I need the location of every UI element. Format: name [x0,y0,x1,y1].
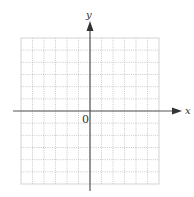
y-axis-label: y [85,9,92,20]
x-axis-label: x [185,105,191,116]
x-axis-arrow-icon [172,108,182,115]
origin-label: 0 [82,113,89,126]
coordinate-plane: x y 0 [0,0,194,197]
y-axis-arrow-icon [87,21,94,31]
